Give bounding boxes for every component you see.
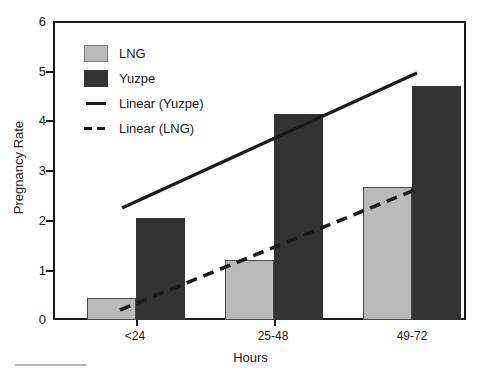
legend-item-yuzpe: Yuzpe [84, 67, 204, 89]
trendline-lng-dashed [120, 189, 417, 310]
chart-legend: LNG Yuzpe Linear (Yuzpe) Linear (LNG) [84, 42, 204, 142]
legend-item-lng: LNG [84, 42, 204, 64]
x-tick-mark-1 [136, 320, 138, 326]
legend-swatch-yuzpe-icon [84, 70, 108, 87]
y-axis-title: Pregnancy Rate [11, 103, 26, 233]
x-tick-mark-2 [274, 320, 276, 326]
legend-swatch-lng-icon [84, 45, 108, 62]
legend-solid-line-icon [84, 95, 108, 112]
legend-label-lng: LNG [119, 46, 146, 61]
x-tick-label-49-72: 49-72 [367, 330, 457, 342]
x-tick-label-lt24: <24 [90, 330, 180, 342]
legend-item-linear-yuzpe: Linear (Yuzpe) [84, 92, 204, 114]
legend-label-linear-yuzpe: Linear (Yuzpe) [119, 96, 204, 111]
legend-item-linear-lng: Linear (LNG) [84, 117, 204, 139]
x-tick-label-25-48: 25-48 [228, 330, 318, 342]
chart-figure: 6 5 4 3 2 1 0 <24 25-48 49-72 Preg [0, 0, 501, 372]
legend-label-linear-lng: Linear (LNG) [119, 121, 194, 136]
x-axis-title: Hours [0, 350, 501, 365]
trendlines [0, 0, 501, 372]
scan-edge-rule [15, 364, 86, 366]
legend-dashed-line-icon [84, 120, 108, 137]
legend-label-yuzpe: Yuzpe [119, 71, 155, 86]
